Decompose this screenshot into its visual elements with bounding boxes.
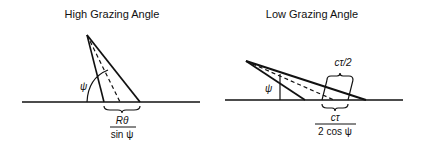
pulse-box-right (348, 80, 353, 100)
low-grazing-angle-panel: Low Grazing Angle ψ cτ/2 cτ 2 cos ψ (225, 8, 403, 137)
right-footprint-denominator: 2 cos ψ (318, 126, 352, 137)
grazing-angle-diagram: High Grazing Angle ψ Rθ sin ψ Low Grazin… (0, 0, 421, 151)
left-footprint-brace (104, 106, 140, 113)
high-grazing-angle-panel: High Grazing Angle ψ Rθ sin ψ (22, 8, 200, 140)
left-footprint-numerator: Rθ (116, 115, 129, 126)
right-footprint-brace (322, 104, 348, 111)
left-title: High Grazing Angle (65, 8, 160, 20)
left-footprint-denominator: sin ψ (111, 129, 134, 140)
right-title: Low Grazing Angle (266, 8, 358, 20)
pulse-length-label: cτ/2 (334, 57, 352, 68)
right-footprint-numerator: cτ (331, 112, 341, 123)
left-angle-label: ψ (80, 81, 88, 92)
left-beam-center (87, 35, 120, 102)
right-beam-center (246, 61, 334, 100)
pulse-brace (327, 73, 353, 80)
right-beam-near-edge (246, 61, 305, 100)
right-angle-label: ψ (265, 83, 273, 94)
